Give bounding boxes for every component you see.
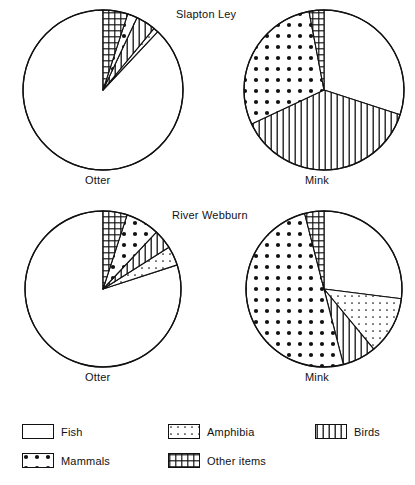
legend-label-other-items: Other items [207,455,266,467]
pie-otter-slapton [23,10,183,170]
legend-label-fish: Fish [61,426,83,438]
panel-label-otter-slapton: Otter [85,174,110,186]
legend-swatch-mammals-icon [22,453,54,468]
legend-item-fish: Fish [22,424,83,439]
legend-swatch-fish-icon [22,424,54,439]
legend-label-mammals: Mammals [61,455,110,467]
pie-chart-figure [0,0,415,485]
legend-item-amphibia: Amphibia [168,424,254,439]
legend-label-amphibia: Amphibia [207,426,254,438]
pie-mink-slapton [244,10,404,170]
legend-item-mammals: Mammals [22,453,110,468]
legend-swatch-amphibia-icon [168,424,200,439]
legend-label-birds: Birds [354,426,380,438]
legend-swatch-other-items-icon [168,453,200,468]
panel-label-otter-webburn: Otter [85,371,110,383]
site-title-slapton-ley: Slapton Ley [176,8,236,20]
legend-item-other: Other items [168,453,266,468]
pie-mink-webburn [246,211,402,367]
pie-otter-webburn [25,211,181,367]
legend-item-birds: Birds [315,424,380,439]
legend-swatch-birds-icon [315,424,347,439]
panel-label-mink-webburn: Mink [305,371,329,383]
legend: Fish Amphibia Birds Mammals Other items [0,415,415,485]
panel-label-mink-slapton: Mink [305,174,329,186]
site-title-river-webburn: River Webburn [172,209,248,221]
